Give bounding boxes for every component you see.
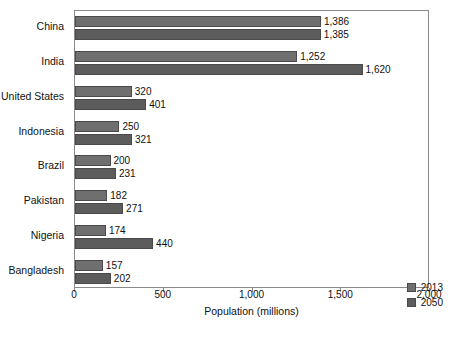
legend-swatch-2050-icon [407, 298, 416, 307]
bar-value-2050-nigeria: 440 [156, 238, 173, 249]
category-label-indonesia: Indonesia [18, 125, 64, 137]
x-tick-label-500: 500 [154, 289, 171, 300]
legend-item-2013: 2013 [407, 282, 443, 293]
category-label-brazil: Brazil [38, 159, 64, 171]
plot-area: 1,3861,3851,2521,62032040125032120023118… [74, 10, 429, 288]
bar-value-2050-brazil: 231 [119, 168, 136, 179]
bar-value-2013-brazil: 200 [114, 155, 131, 166]
bar-2013-nigeria [75, 225, 106, 236]
category-axis-labels: ChinaIndiaUnited StatesIndonesiaBrazilPa… [0, 10, 70, 288]
bar-value-2013-china: 1,386 [324, 16, 349, 27]
category-label-pakistan: Pakistan [24, 194, 64, 206]
bar-value-2050-indonesia: 321 [135, 134, 152, 145]
bar-value-2050-china: 1,385 [324, 29, 349, 40]
bar-2013-india [75, 51, 297, 62]
bar-2050-china [75, 29, 321, 40]
bar-2013-bangladesh [75, 260, 103, 271]
chart-legend: 2013 2050 [407, 282, 443, 312]
bar-2050-brazil [75, 168, 116, 179]
bar-value-2013-bangladesh: 157 [106, 260, 123, 271]
bar-value-2013-indonesia: 250 [122, 121, 139, 132]
bar-value-2050-india: 1,620 [366, 64, 391, 75]
x-tick-label-1500: 1,500 [328, 289, 353, 300]
bar-value-2050-pakistan: 271 [126, 203, 143, 214]
bar-2050-indonesia [75, 134, 132, 145]
bar-2013-united-states [75, 86, 132, 97]
bar-2050-united-states [75, 99, 146, 110]
bar-2013-brazil [75, 155, 111, 166]
bar-value-2013-india: 1,252 [300, 51, 325, 62]
x-tick-label-1000: 1,000 [239, 289, 264, 300]
category-label-united-states: United States [1, 90, 64, 102]
bar-2013-indonesia [75, 121, 119, 132]
legend-item-2050: 2050 [407, 297, 443, 308]
bar-2050-bangladesh [75, 273, 111, 284]
legend-label-2013: 2013 [421, 282, 443, 293]
population-bar-chart: ChinaIndiaUnited StatesIndonesiaBrazilPa… [0, 0, 457, 344]
bar-2050-pakistan [75, 203, 123, 214]
bar-value-2013-pakistan: 182 [110, 190, 127, 201]
bar-2050-nigeria [75, 238, 153, 249]
legend-label-2050: 2050 [421, 297, 443, 308]
category-label-india: India [41, 55, 64, 67]
bar-2013-china [75, 16, 321, 27]
category-label-china: China [37, 20, 64, 32]
bar-value-2050-bangladesh: 202 [114, 273, 131, 284]
bar-value-2013-united-states: 320 [135, 86, 152, 97]
bar-2050-india [75, 64, 363, 75]
bar-2013-pakistan [75, 190, 107, 201]
bar-value-2050-united-states: 401 [149, 99, 166, 110]
x-axis-title: Population (millions) [74, 305, 429, 317]
category-label-nigeria: Nigeria [31, 229, 64, 241]
legend-swatch-2013-icon [407, 283, 416, 292]
bar-value-2013-nigeria: 174 [109, 225, 126, 236]
category-label-bangladesh: Bangladesh [9, 264, 64, 276]
x-tick-label-0: 0 [71, 289, 77, 300]
